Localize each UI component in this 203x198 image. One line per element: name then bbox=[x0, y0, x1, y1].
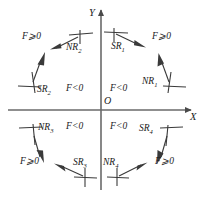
marker-label-SR3: SR3 bbox=[73, 158, 87, 169]
region-label-inner-quadrant-4: F<0 bbox=[110, 122, 128, 132]
region-label-outer-top-left: F⩾0 bbox=[22, 32, 41, 42]
marker-label-NR2-base: NR bbox=[66, 42, 78, 52]
diagram-vector-layer bbox=[0, 0, 203, 198]
marker-label-NR1-sub: 1 bbox=[154, 81, 157, 88]
marker-label-SR3-base: SR bbox=[73, 157, 84, 167]
region-label-outer-bottom-left: F⩾0 bbox=[20, 157, 39, 167]
marker-label-SR1: SR1 bbox=[111, 42, 125, 53]
marker-label-NR2: NR2 bbox=[66, 43, 81, 54]
origin-label: O bbox=[104, 96, 111, 106]
marker-label-NR4-sub: 4 bbox=[115, 162, 118, 169]
region-label-inner-quadrant-2: F<0 bbox=[66, 84, 84, 94]
marker-label-SR4: SR4 bbox=[139, 124, 153, 135]
marker-label-SR1-base: SR bbox=[111, 41, 122, 51]
marker-label-NR4-base: NR bbox=[103, 157, 115, 167]
x-axis-label: X bbox=[190, 112, 196, 123]
marker-label-SR4-base: SR bbox=[139, 123, 150, 133]
marker-label-NR1: NR1 bbox=[142, 77, 157, 88]
marker-label-SR1-sub: 1 bbox=[122, 46, 125, 53]
diagram-canvas: X Y O F⩾0 F⩾0 F⩾0 F⩾0 F<0 F<0 F<0 F<0 NR… bbox=[0, 0, 203, 198]
region-label-inner-quadrant-3: F<0 bbox=[66, 122, 84, 132]
marker-label-SR2-base: SR bbox=[37, 84, 48, 94]
marker-label-NR2-sub: 2 bbox=[78, 47, 81, 54]
marker-label-NR3: NR3 bbox=[38, 123, 53, 134]
marker-label-NR4: NR4 bbox=[103, 158, 118, 169]
marker-NR1-glyph bbox=[158, 53, 187, 93]
y-axis-label: Y bbox=[89, 8, 95, 19]
marker-label-SR2: SR2 bbox=[37, 85, 51, 96]
marker-label-NR3-sub: 3 bbox=[50, 127, 53, 134]
marker-label-NR3-base: NR bbox=[38, 122, 50, 132]
marker-label-SR4-sub: 4 bbox=[150, 128, 153, 135]
region-label-outer-top-right: F⩾0 bbox=[152, 32, 171, 42]
region-label-outer-bottom-right: F⩾0 bbox=[155, 157, 174, 167]
marker-label-NR1-base: NR bbox=[142, 76, 154, 86]
region-label-inner-quadrant-1: F<0 bbox=[110, 84, 128, 94]
marker-label-SR3-sub: 3 bbox=[84, 162, 87, 169]
marker-label-SR2-sub: 2 bbox=[48, 89, 51, 96]
